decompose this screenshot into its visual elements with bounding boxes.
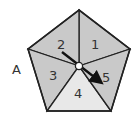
spinner-hub bbox=[75, 62, 82, 69]
outside-label-a: A bbox=[12, 62, 21, 77]
sector-5-label: 5 bbox=[102, 70, 110, 85]
sector-2-label: 2 bbox=[57, 37, 65, 52]
sector-1-label: 1 bbox=[91, 37, 99, 52]
sector-3-label: 3 bbox=[49, 68, 57, 83]
sector-4-label: 4 bbox=[74, 86, 82, 101]
pentagon-spinner-diagram: 1 2 3 4 5 A bbox=[0, 0, 136, 122]
